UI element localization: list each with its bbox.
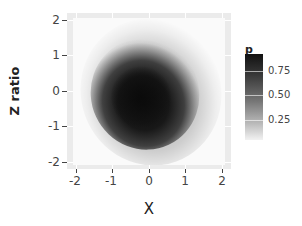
x-tick-2 (222, 169, 223, 173)
colorbar-tick-0.75 (245, 71, 263, 72)
x-tick-label: 1 (181, 175, 189, 187)
x-tick-label: 0 (145, 175, 153, 187)
y-tick-label: 1 (52, 49, 60, 61)
x-tick-0 (149, 169, 150, 173)
y-tick-label: -1 (48, 120, 60, 132)
y-tick-label: 0 (52, 85, 60, 97)
y-tick-label: -2 (48, 156, 60, 168)
colorbar-tick-0.50 (245, 95, 263, 96)
x-tick-label: -2 (69, 175, 81, 187)
x-axis-title: X (144, 200, 154, 218)
heatmap-raster (73, 18, 225, 165)
y-tick-0 (62, 91, 67, 92)
y-tick--1 (62, 126, 67, 127)
legend-label: 0.50 (268, 90, 290, 100)
plot-panel (67, 13, 231, 169)
y-tick--2 (62, 162, 67, 163)
x-tick--2 (76, 169, 77, 173)
y-tick-1 (62, 55, 67, 56)
legend-label: 0.25 (268, 115, 290, 125)
y-tick-2 (62, 20, 67, 21)
x-tick-label: -1 (105, 175, 117, 187)
heatmap-core (111, 66, 171, 128)
y-axis-title: Z ratio (7, 67, 22, 116)
x-tick-label: 2 (218, 175, 226, 187)
x-tick--1 (112, 169, 113, 173)
colorbar-tick-0.25 (245, 120, 263, 121)
x-tick-1 (185, 169, 186, 173)
legend-label: 0.75 (268, 66, 290, 76)
legend-colorbar (245, 54, 263, 140)
y-tick-label: 2 (52, 14, 60, 26)
